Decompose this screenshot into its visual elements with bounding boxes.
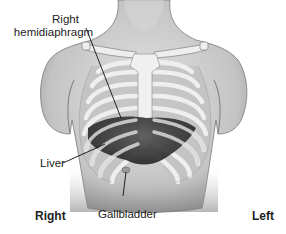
label-right-hemidiaphragm: Right hemidiaphragm	[6, 13, 101, 39]
label-side-left: Left	[252, 210, 274, 223]
label-liver: Liver	[40, 157, 65, 170]
label-side-right: Right	[35, 210, 66, 223]
label-line-2: hemidiaphragm	[6, 26, 101, 39]
anatomy-diagram: Right hemidiaphragm Liver Gallbladder Ri…	[0, 0, 286, 234]
label-gallbladder: Gallbladder	[98, 208, 157, 221]
label-line-1: Right	[6, 13, 101, 26]
